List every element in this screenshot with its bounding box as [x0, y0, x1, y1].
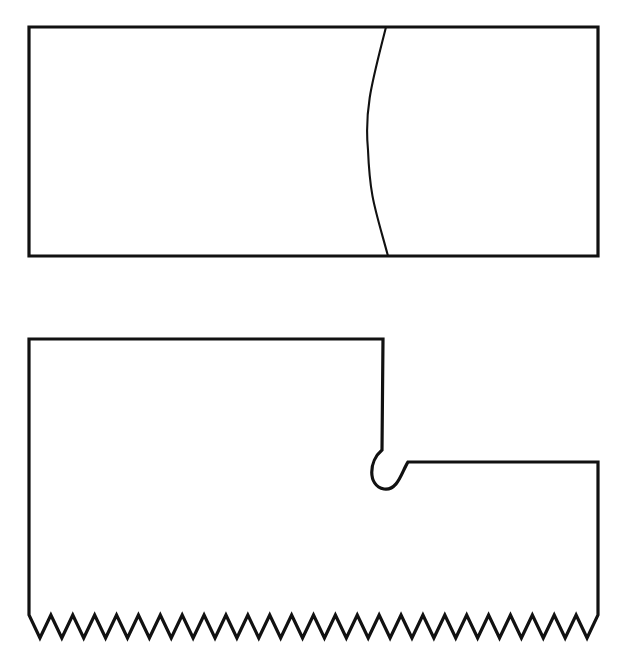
- upper-rectangle-outline: [29, 27, 598, 256]
- interior-vertical-arc: [367, 27, 388, 256]
- shapes-diagram: [0, 0, 624, 660]
- lower-notched-shape-outline: [29, 339, 598, 638]
- lower-notched-shape-group: [29, 339, 598, 638]
- upper-rectangle-group: [29, 27, 598, 256]
- figure-canvas: Upper rectangle with curved dividing lin…: [0, 0, 624, 660]
